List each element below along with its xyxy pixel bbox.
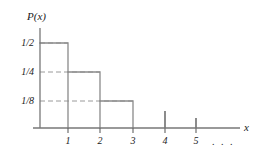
xtick-label-4: 4 xyxy=(155,136,175,146)
probability-distribution-figure: P(x) x 1/2 1/4 1/8 1 2 3 4 5 . . . xyxy=(0,0,264,167)
ytick-label-quarter: 1/4 xyxy=(10,67,34,77)
y-axis-title: P(x) xyxy=(27,11,46,22)
continuation-ellipsis: . . . xyxy=(212,137,235,147)
xtick-label-5: 5 xyxy=(186,136,206,146)
x-axis-title: x xyxy=(244,122,249,133)
small-bars xyxy=(165,111,196,128)
histogram-bars xyxy=(40,43,133,128)
x-axis-ticks xyxy=(68,128,196,133)
ytick-label-eighth: 1/8 xyxy=(10,96,34,106)
ytick-label-half: 1/2 xyxy=(10,38,34,48)
bar-x2 xyxy=(68,72,100,128)
xtick-label-2: 2 xyxy=(90,136,110,146)
bar-x3 xyxy=(100,101,133,128)
bar-x1 xyxy=(40,43,68,128)
xtick-label-1: 1 xyxy=(58,136,78,146)
xtick-label-3: 3 xyxy=(123,136,143,146)
